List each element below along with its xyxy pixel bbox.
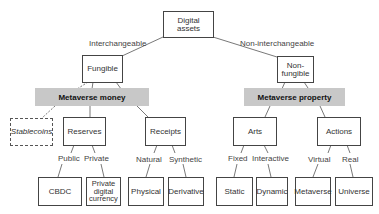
node-actions: Actions	[317, 117, 361, 146]
node-fungible: Fungible	[82, 55, 123, 83]
edge-label-synthetic: Synthetic	[169, 155, 202, 164]
edge-label-public: Public	[58, 154, 80, 163]
node-universe: Universe	[335, 177, 373, 206]
node-derivative: Derivative	[168, 177, 204, 206]
node-reserves: Reserves	[63, 117, 106, 146]
edge-label-fixed: Fixed	[228, 154, 248, 163]
edge-label-non-interchangeable: Non-interchangeable	[240, 39, 314, 48]
node-stablecoins: Stablecoins	[10, 118, 53, 146]
node-cbdc: CBDC	[38, 177, 82, 206]
edge-label-virtual: Virtual	[308, 155, 331, 164]
edge-label-private: Private	[84, 154, 109, 163]
node-arts: Arts	[233, 117, 277, 146]
category-metaverse-money: Metaverse money	[35, 88, 149, 106]
node-private-digital-currency: Private digital currency	[86, 177, 121, 206]
category-metaverse-property: Metaverse property	[244, 88, 345, 106]
edge-label-natural: Natural	[136, 155, 162, 164]
node-receipts: Receipts	[145, 117, 186, 146]
edge-label-real: Real	[342, 155, 358, 164]
node-static: Static	[216, 177, 253, 206]
edge-label-interchangeable: Interchangeable	[89, 39, 146, 48]
node-non-fungible: Non- fungible	[277, 56, 314, 83]
node-metaverse: Metaverse	[295, 177, 331, 206]
edge-label-interactive: Interactive	[252, 154, 289, 163]
node-physical: Physical	[128, 177, 164, 206]
node-dynamic: Dynamic	[256, 177, 288, 206]
node-digital-assets: Digital assets	[163, 11, 214, 38]
